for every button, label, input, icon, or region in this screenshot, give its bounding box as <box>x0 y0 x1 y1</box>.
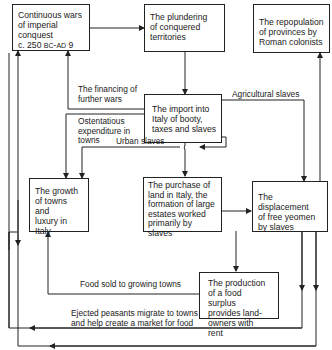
box-text: conquest <box>18 30 84 40</box>
label-text: further wars <box>78 95 137 105</box>
box-text: The growth <box>35 186 83 196</box>
box-plundering: The plundering of conquered territories <box>144 4 225 52</box>
box-text: of provinces by <box>259 27 324 37</box>
date-suffix: 9 <box>66 40 73 50</box>
label-food-sold: Food sold to growing towns <box>80 280 181 290</box>
box-text: primarily by slaves <box>148 219 217 238</box>
box-production: The production of a food surplus provide… <box>199 272 279 319</box>
box-text: of imperial <box>18 20 84 30</box>
label-urban-slaves: Urban slaves <box>116 137 164 147</box>
box-text: The displacement <box>258 192 322 212</box>
box-purchase: The purchase of land in Italy, the forma… <box>143 177 222 232</box>
box-text: The production <box>208 278 270 288</box>
date-bc: BC <box>44 42 54 49</box>
box-text: Continuous wars <box>18 10 84 20</box>
label-ejected-peasants: Ejected peasants migrate to towns and he… <box>71 309 198 328</box>
box-text: of towns and <box>35 196 83 216</box>
box-text: of a food surplus <box>208 288 270 308</box>
label-financing: The financing of further wars <box>78 85 137 104</box>
box-text: by slaves <box>258 222 322 232</box>
box-text: luxury in <box>35 216 83 226</box>
box-text: owners with rent <box>208 318 270 338</box>
box-growth: The growth of towns and luxury in Italy <box>29 178 89 232</box>
box-text: The plundering <box>150 12 219 22</box>
box-text: provides land- <box>208 308 270 318</box>
label-agricultural-slaves: Agricultural slaves <box>232 90 299 100</box>
date-ad: AD <box>56 42 66 49</box>
box-text: The repopulation <box>259 17 324 27</box>
box-text: taxes and slaves <box>152 124 216 134</box>
box-text: Italy <box>35 226 83 236</box>
date-prefix: c. 250 <box>18 40 44 50</box>
label-text: and help create a market for food <box>71 319 198 329</box>
box-text: territories <box>150 32 219 42</box>
box-continuous-wars: Continuous wars of imperial conquest c. … <box>12 4 90 51</box>
box-repopulation: The repopulation of provinces by Roman c… <box>253 4 330 53</box>
box-displacement: The displacement of free yeomen by slave… <box>252 181 328 232</box>
box-text: of conquered <box>150 22 219 32</box>
box-text-date: c. 250 BC-AD 9 <box>18 40 84 51</box>
box-text: of free yeomen <box>258 212 322 222</box>
box-text: Roman colonists <box>259 37 324 47</box>
box-text: The import into <box>152 104 216 114</box>
box-text: Italy of booty, <box>152 114 216 124</box>
